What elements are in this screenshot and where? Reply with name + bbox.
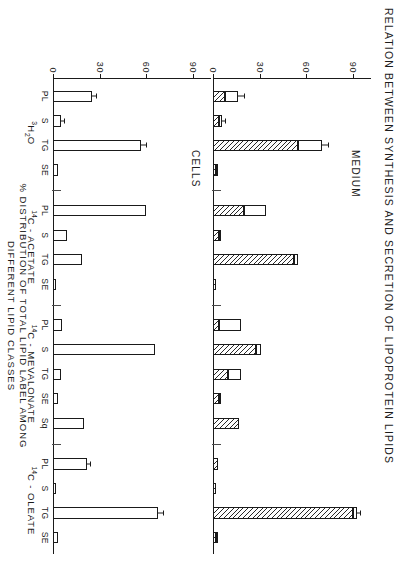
bar-segment-hatched[interactable] <box>213 279 216 290</box>
bar-segment-open[interactable] <box>294 254 299 265</box>
value-axis-tick <box>193 74 194 79</box>
bar-slot <box>213 254 371 265</box>
bar-segment-open[interactable] <box>229 369 241 380</box>
bar-segment-open[interactable] <box>219 319 241 330</box>
bar[interactable] <box>53 319 62 330</box>
bar-slot <box>213 369 371 380</box>
category-label-pl: PL <box>40 313 49 338</box>
bar-slot <box>213 91 371 102</box>
bar-slot <box>213 230 371 241</box>
bar-segment-hatched[interactable] <box>213 205 244 216</box>
category-label-se: SE <box>40 158 49 183</box>
panel-cells: 0306090 <box>53 78 211 554</box>
group-separator <box>212 444 221 445</box>
category-label-tg: TG <box>40 362 49 387</box>
value-axis-tick-label: 30 <box>255 57 264 73</box>
bar-slot <box>53 483 211 494</box>
bar[interactable] <box>53 91 92 102</box>
error-bar-cap <box>90 461 91 466</box>
bar-slot <box>53 254 211 265</box>
bar-slot <box>53 319 211 330</box>
bar-slot <box>53 369 211 380</box>
bar-slot <box>53 418 211 429</box>
value-axis-tick-label: 30 <box>95 57 104 73</box>
bar[interactable] <box>53 205 146 216</box>
bar[interactable] <box>53 418 84 429</box>
bar[interactable] <box>53 279 56 290</box>
value-axis-tick <box>353 74 354 79</box>
bar-segment-open[interactable] <box>216 164 218 175</box>
bar[interactable] <box>53 344 155 355</box>
bar-segment-open[interactable] <box>219 230 221 241</box>
bar-slot <box>213 205 371 216</box>
bar[interactable] <box>53 230 67 241</box>
error-bar-cap <box>146 143 147 148</box>
panel-medium: 0306090 <box>213 78 371 554</box>
bar-segment-hatched[interactable] <box>213 369 229 380</box>
bar[interactable] <box>53 483 56 494</box>
bar[interactable] <box>53 507 158 518</box>
value-axis-tick-label: 0 <box>208 57 217 73</box>
bar-slot <box>53 164 211 175</box>
bar[interactable] <box>53 393 58 404</box>
bar-slot <box>213 418 371 429</box>
category-label-tg: TG <box>40 248 49 273</box>
bar-segment-open[interactable] <box>256 344 261 355</box>
bar-segment-hatched[interactable] <box>213 483 216 494</box>
figure-canvas: RELATION BETWEEN SYNTHESIS AND SECRETION… <box>0 0 407 583</box>
value-axis-tick <box>260 74 261 79</box>
error-bar-cap <box>244 94 245 99</box>
bar[interactable] <box>53 369 61 380</box>
bar-slot <box>213 532 371 543</box>
value-axis-tick-label: 90 <box>188 57 197 73</box>
value-axis-tick-label: 60 <box>301 57 310 73</box>
bar-segment-open[interactable] <box>225 91 237 102</box>
group-separator <box>212 190 221 191</box>
group-label-acetate: 14C - ACETATE <box>26 198 38 296</box>
bar-slot <box>53 532 211 543</box>
bar-slot <box>213 483 371 494</box>
bar-slot <box>53 393 211 404</box>
category-label-s: S <box>40 223 49 248</box>
bar-segment-hatched[interactable] <box>213 418 239 429</box>
value-axis-cells <box>53 78 211 79</box>
bar[interactable] <box>53 458 87 469</box>
group-separator <box>52 305 61 306</box>
group-separator <box>212 305 221 306</box>
bar-slot <box>53 115 211 126</box>
bar-slot <box>213 458 371 469</box>
category-label-s: S <box>40 109 49 134</box>
bar-segment-open[interactable] <box>244 205 266 216</box>
bar[interactable] <box>53 115 61 126</box>
error-bar-cap <box>360 511 361 516</box>
error-bar-cap <box>225 118 226 123</box>
bar[interactable] <box>53 532 58 543</box>
error-bar-cap <box>163 511 164 516</box>
bar-segment-open[interactable] <box>219 393 221 404</box>
error-bar-cap <box>96 94 97 99</box>
bar-segment-hatched[interactable] <box>213 254 294 265</box>
bar-slot <box>213 393 371 404</box>
bar-slot <box>213 140 371 151</box>
bar-slot <box>213 279 371 290</box>
bar[interactable] <box>53 140 141 151</box>
bar-segment-hatched[interactable] <box>213 91 225 102</box>
bar-segment-open[interactable] <box>298 140 321 151</box>
bar-segment-hatched[interactable] <box>213 507 353 518</box>
bar-segment-hatched[interactable] <box>213 344 256 355</box>
bar-segment-hatched[interactable] <box>213 140 298 151</box>
value-axis-title-line2: DIFFERENT LIPID CLASSES <box>5 78 17 554</box>
category-label-pl: PL <box>40 452 49 477</box>
category-label-pl: PL <box>40 84 49 109</box>
category-label-tg: TG <box>40 501 49 526</box>
bar-segment-hatched[interactable] <box>213 458 218 469</box>
bar-segment-open[interactable] <box>216 532 218 543</box>
bar[interactable] <box>53 164 58 175</box>
bar[interactable] <box>53 254 82 265</box>
category-label-s: S <box>40 476 49 501</box>
group-separator <box>52 190 61 191</box>
value-axis-tick <box>100 74 101 79</box>
bar-slot <box>53 91 211 102</box>
bar-slot <box>213 344 371 355</box>
category-label-pl: PL <box>40 198 49 223</box>
